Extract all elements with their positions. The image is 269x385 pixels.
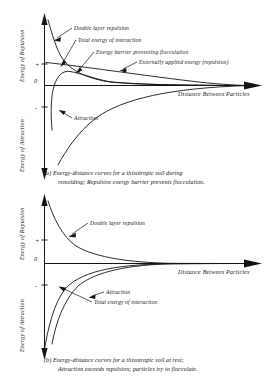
y-axis-arrow-up-icon-b bbox=[41, 194, 47, 206]
panel-a-label-attraction: Attraction bbox=[73, 115, 98, 121]
panel-a-caption-line-2: remolding; Repulsive energy barrier prev… bbox=[58, 179, 205, 185]
panel-b-x-axis-title: Distance Between Particles bbox=[177, 269, 250, 275]
panel-b: Double layer repulsion Attraction Total … bbox=[19, 194, 262, 372]
panel-b-y-axis-lower-title: Energy of Attraction bbox=[19, 299, 25, 353]
panel-a-curve-total-energy-of-interaction bbox=[51, 71, 247, 130]
panel-b-curve-double-layer-repulsion bbox=[48, 201, 247, 264]
panel-a-caption-line-1: (a) Energy-distance curves for a thixotr… bbox=[44, 170, 183, 177]
panel-b-y-axis-upper-title: Energy of Repulsion bbox=[19, 207, 25, 261]
panel-a-y-axis bbox=[41, 13, 47, 180]
figure-canvas: Double layer repulsion Total energy of i… bbox=[0, 0, 269, 385]
panel-b-caption-line-2: Attraction exceeds repulsion; particles … bbox=[57, 366, 198, 372]
panel-b-label-double-layer-repulsion: Double layer repulsion bbox=[89, 220, 145, 226]
panel-b-curve-total-energy-of-interaction bbox=[44, 264, 247, 353]
panel-a-label-energy-barrier: Energy barrier preventing flocculation bbox=[95, 49, 188, 55]
panel-a-curve-externally-applied-energy bbox=[46, 63, 247, 86]
panel-b-label-total-energy-of-interaction: Total energy of interaction bbox=[94, 299, 158, 305]
panel-a-y-axis-lower-title: Energy of Attraction bbox=[19, 119, 25, 173]
panel-a-y-axis-upper-title: Energy of Repulsion bbox=[19, 29, 25, 83]
panel-a-tick-plus: + bbox=[35, 61, 39, 68]
panel-a-tick-zero: 0 bbox=[34, 77, 38, 84]
panel-a-label-double-layer-repulsion: Double layer repulsion bbox=[73, 25, 129, 31]
energy-distance-figure: Double layer repulsion Total energy of i… bbox=[0, 0, 269, 385]
panel-b-leaders bbox=[59, 223, 104, 302]
panel-b-label-attraction: Attraction bbox=[105, 289, 130, 295]
y-axis-arrow-up-icon bbox=[41, 13, 47, 25]
panel-a-x-axis-title: Distance Between Particles bbox=[177, 91, 250, 97]
panel-b-tick-plus: + bbox=[35, 237, 39, 244]
panel-b-tick-zero: 0 bbox=[34, 255, 38, 262]
panel-b-tick-minus: - bbox=[35, 282, 37, 289]
panel-a-label-externally-applied-energy: Externally applied energy (repulsion) bbox=[138, 59, 228, 66]
panel-a-tick-minus: - bbox=[35, 104, 37, 111]
panel-a-curve-attraction bbox=[58, 86, 247, 165]
panel-a-label-total-energy-of-interaction: Total energy of interaction bbox=[78, 37, 142, 43]
panel-a: Double layer repulsion Total energy of i… bbox=[19, 13, 262, 185]
panel-b-y-axis bbox=[41, 194, 47, 360]
panel-b-caption-line-1: (b) Energy-distance curves for a thixotr… bbox=[44, 357, 184, 364]
